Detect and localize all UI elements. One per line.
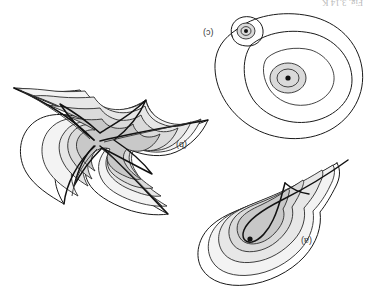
panel-label-a: (a) <box>301 236 312 245</box>
twocenter-maximum-dot-small <box>244 29 248 33</box>
panel-label-b: (b) <box>176 140 187 149</box>
figure-caption-fragment: Fig. 3.14 K <box>283 0 363 8</box>
figure-container: .cc { fill: none; stroke: #1a1a1a; strok… <box>0 0 366 287</box>
panel-label-c: (c) <box>203 28 214 37</box>
teardrop-minimum-dot <box>247 236 252 241</box>
twocenter-maximum-dot-large <box>285 75 290 80</box>
